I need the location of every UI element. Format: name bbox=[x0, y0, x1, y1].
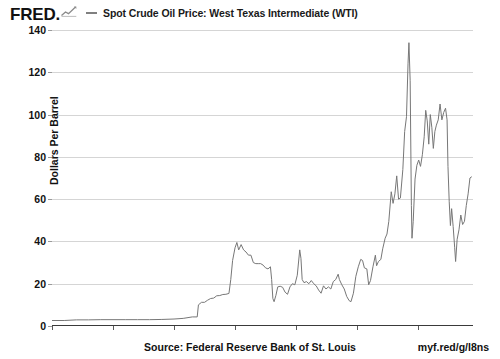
x-axis-tick bbox=[418, 326, 419, 330]
y-axis-title: Dollars Per Barrel bbox=[48, 96, 60, 185]
y-axis-tick-label: 80 bbox=[0, 151, 46, 163]
y-axis-tick bbox=[48, 326, 52, 327]
y-axis-tick-label: 120 bbox=[0, 66, 46, 78]
x-axis-tick bbox=[235, 326, 236, 330]
y-axis-tick-label: 0 bbox=[0, 320, 46, 332]
short-url-label: myf.red/g/l8ns bbox=[418, 341, 489, 353]
y-axis-tick bbox=[48, 30, 52, 31]
chart-header: FRED. Spot Crude Oil Price: West Texas I… bbox=[0, 0, 500, 26]
fred-wordmark: FRED. bbox=[10, 6, 60, 23]
x-axis-tick bbox=[357, 326, 358, 330]
y-axis-tick bbox=[48, 72, 52, 73]
fred-chart-screenshot: FRED. Spot Crude Oil Price: West Texas I… bbox=[0, 0, 500, 359]
plot-inner bbox=[52, 30, 473, 326]
legend-label: Spot Crude Oil Price: West Texas Interme… bbox=[103, 7, 358, 19]
x-axis-line bbox=[52, 325, 473, 326]
x-axis-tick bbox=[113, 326, 114, 330]
legend-entry-wti: Spot Crude Oil Price: West Texas Interme… bbox=[86, 7, 358, 19]
y-axis-tick-label: 60 bbox=[0, 193, 46, 205]
y-axis-tick-label: 40 bbox=[0, 235, 46, 247]
plot-area: 020406080100120140 195019601970198019902… bbox=[52, 30, 473, 326]
y-axis-tick bbox=[48, 284, 52, 285]
x-axis-tick bbox=[174, 326, 175, 330]
legend-line-swatch bbox=[86, 12, 97, 14]
x-axis-tick bbox=[296, 326, 297, 330]
series-polyline bbox=[52, 43, 471, 321]
y-axis-tick bbox=[48, 241, 52, 242]
y-axis-tick-label: 100 bbox=[0, 109, 46, 121]
fred-chart-logo-icon bbox=[61, 3, 77, 21]
y-axis-tick bbox=[48, 199, 52, 200]
x-axis-tick bbox=[52, 326, 53, 330]
series-line-wti bbox=[52, 30, 473, 326]
fred-brand: FRED. bbox=[10, 3, 77, 23]
y-axis-tick-label: 20 bbox=[0, 278, 46, 290]
